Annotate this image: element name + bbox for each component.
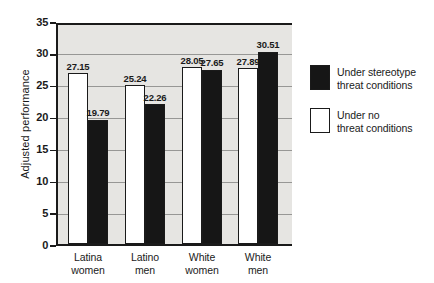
category-label-line2: women	[172, 264, 232, 277]
category-label-line2: women	[58, 264, 118, 277]
legend-swatch-threat	[310, 65, 330, 90]
legend-label-line2: threat conditions	[337, 122, 432, 135]
bar-value-label: 25.24	[115, 73, 155, 84]
bar-value-label: 27.89	[228, 56, 268, 67]
legend-label-no_threat: Under nothreat conditions	[337, 109, 432, 135]
category-label: Whitewomen	[172, 251, 232, 277]
y-tick-label: 0	[18, 240, 48, 251]
y-tick-label: 10	[18, 176, 48, 187]
y-tick	[50, 86, 56, 88]
y-tick-label: 5	[18, 208, 48, 219]
y-tick	[50, 54, 56, 56]
bar-threat	[202, 70, 222, 244]
y-tick	[50, 213, 56, 215]
category-label-line1: White	[228, 251, 288, 264]
bar-no_threat	[68, 73, 88, 244]
y-tick	[50, 150, 56, 152]
bar-no_threat	[182, 67, 202, 244]
y-tick-label: 30	[18, 48, 48, 59]
bar-value-label: 30.51	[248, 39, 288, 50]
bar-value-label: 27.65	[192, 57, 232, 68]
y-tick	[50, 182, 56, 184]
legend-label-line1: Under stereotype	[337, 66, 432, 79]
y-tick-label: 15	[18, 144, 48, 155]
bar-value-label: 27.15	[58, 61, 98, 72]
category-label-line1: Latino	[115, 251, 175, 264]
bar-value-label: 22.26	[135, 92, 175, 103]
y-tick-label: 25	[18, 80, 48, 91]
bar-no_threat	[238, 68, 258, 244]
category-label: Whitemen	[228, 251, 288, 277]
bar-threat	[88, 120, 108, 244]
y-tick-label: 20	[18, 112, 48, 123]
y-tick	[50, 22, 56, 24]
category-label-line2: men	[115, 264, 175, 277]
bar-threat	[258, 52, 278, 244]
category-label-line1: Latina	[58, 251, 118, 264]
category-label: Latinomen	[115, 251, 175, 277]
category-label: Latinawomen	[58, 251, 118, 277]
y-tick	[50, 118, 56, 120]
bar-no_threat	[125, 85, 145, 244]
legend-label-line1: Under no	[337, 109, 432, 122]
stereotype-threat-bar-chart: Adjusted performance 0510152025303527.15…	[0, 0, 434, 283]
legend-swatch-no_threat	[310, 108, 330, 133]
legend-label-line2: threat conditions	[337, 79, 432, 92]
bar-threat	[145, 104, 165, 244]
legend-label-threat: Under stereotypethreat conditions	[337, 66, 432, 92]
y-tick-label: 35	[18, 17, 48, 28]
category-label-line1: White	[172, 251, 232, 264]
y-tick	[50, 245, 56, 247]
category-label-line2: men	[228, 264, 288, 277]
bar-value-label: 19.79	[78, 107, 118, 118]
